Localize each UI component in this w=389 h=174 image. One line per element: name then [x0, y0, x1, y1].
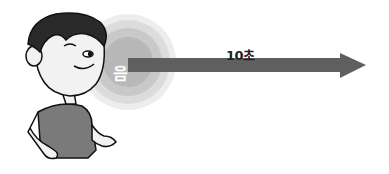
time-label: 10초	[226, 45, 255, 64]
sound-travel-diagram: 음 10초	[0, 0, 389, 174]
sound-label: 음	[113, 60, 128, 84]
diagram-graphic	[0, 0, 389, 174]
